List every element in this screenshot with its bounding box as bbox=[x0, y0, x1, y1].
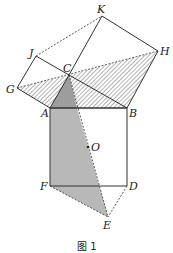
label-F: F bbox=[39, 180, 48, 193]
label-E: E bbox=[102, 219, 111, 232]
label-H: H bbox=[159, 45, 170, 58]
label-K: K bbox=[96, 3, 106, 16]
dashed-DE bbox=[108, 186, 127, 217]
label-G: G bbox=[6, 83, 15, 96]
label-B: B bbox=[128, 107, 137, 120]
pythagorean-diagram: K H J C G A B O F D E 图 1 bbox=[0, 0, 173, 253]
label-A: A bbox=[40, 107, 49, 120]
label-O: O bbox=[91, 141, 100, 154]
label-D: D bbox=[128, 180, 138, 193]
label-J: J bbox=[27, 47, 34, 60]
dashed-JK bbox=[36, 16, 102, 56]
label-C: C bbox=[63, 62, 72, 75]
point-O bbox=[87, 146, 90, 149]
figure-caption: 图 1 bbox=[77, 241, 97, 252]
